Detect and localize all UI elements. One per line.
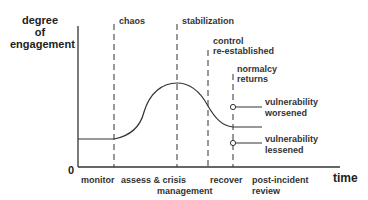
lessened-marker-icon xyxy=(230,140,235,145)
phase-recover: recover xyxy=(210,175,243,185)
phase-monitor: monitor xyxy=(81,175,115,185)
outcome-lessened-line-2: lessened xyxy=(265,145,304,155)
milestone-chaos: chaos xyxy=(119,16,145,26)
milestone-control-line-2: re-established xyxy=(213,46,274,56)
outcome-worsened-line-2: worsened xyxy=(265,108,307,118)
milestone-normalcy-line-2: returns xyxy=(237,74,268,84)
worsened-marker-icon xyxy=(230,104,235,109)
milestone-control-line-1: control xyxy=(213,36,244,46)
phase-review-line-1: post-incident xyxy=(252,175,309,185)
phase-assess-line-1: assess & crisis xyxy=(121,175,186,185)
phase-assess-line-2: management xyxy=(157,186,213,196)
phase-review-line-2: review xyxy=(252,186,280,196)
outcome-lessened-line-1: vulnerability xyxy=(265,134,318,144)
milestone-stabilization: stabilization xyxy=(182,16,234,26)
milestone-normalcy-line-1: normalcy xyxy=(237,64,277,74)
engagement-curve xyxy=(78,83,262,139)
outcome-worsened-line-1: vulnerability xyxy=(265,97,318,107)
